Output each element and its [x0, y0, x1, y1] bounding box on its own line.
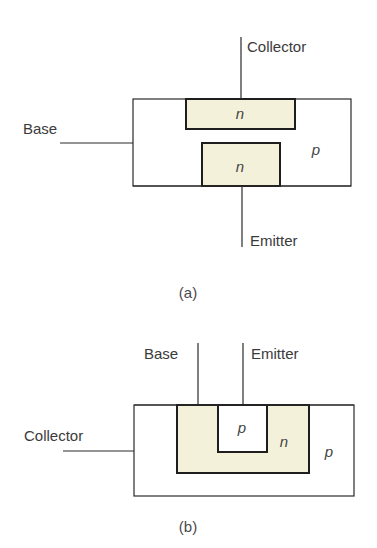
panel-b-collector-label: Collector — [24, 427, 83, 444]
panel-b-base-label: Base — [144, 345, 178, 362]
panel-b-emitter-label: Emitter — [251, 345, 299, 362]
panel-a-base-label: Base — [23, 120, 57, 137]
panel-a-collector-label: Collector — [247, 38, 306, 55]
panel-b-emitter-region-label: p — [237, 419, 246, 436]
panel-a-collector-region-label: n — [236, 105, 244, 122]
transistor-diagram: Collector Base Emitter n n p (a) Base Em… — [0, 0, 377, 548]
panel-a-emitter-region-label: n — [236, 158, 244, 175]
panel-b-base-region-label: n — [280, 433, 288, 450]
panel-b-caption: (b) — [179, 518, 197, 535]
panel-b: Base Emitter Collector p n p (b) — [24, 343, 354, 535]
panel-a-emitter-label: Emitter — [250, 232, 298, 249]
panel-a-caption: (a) — [179, 284, 197, 301]
panel-a: Collector Base Emitter n n p (a) — [23, 37, 351, 301]
panel-b-substrate-label: p — [324, 443, 333, 460]
panel-a-substrate-label: p — [311, 141, 320, 158]
